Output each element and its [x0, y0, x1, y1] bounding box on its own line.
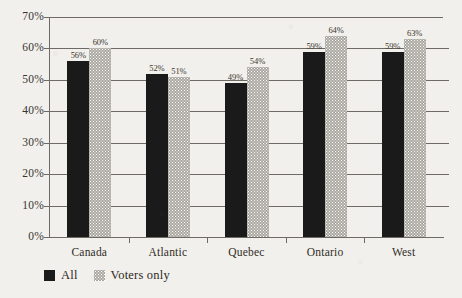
bar-value-label: 60% — [83, 37, 117, 47]
y-axis-tick-label: 60% — [2, 41, 44, 53]
bar-chart: 0%10%20%30%40%50%60%70% 56%60%52%51%49%5… — [0, 0, 462, 298]
y-axis-tick-label: 20% — [2, 167, 44, 179]
bar-value-label: 63% — [398, 28, 432, 38]
bar-quebec-all — [225, 83, 247, 237]
y-axis-tick-label: 10% — [2, 199, 44, 211]
bar-west-all — [382, 52, 404, 237]
y-axis-tick-label: 50% — [2, 73, 44, 85]
legend-swatch-icon — [94, 270, 105, 281]
y-axis-tick-label-wrap: 20% — [0, 167, 44, 181]
y-axis-tick-label-wrap: 40% — [0, 104, 44, 118]
legend-item-all[interactable]: All — [44, 268, 78, 283]
bar-quebec-voters-only — [247, 67, 269, 237]
bar-ontario-all — [303, 52, 325, 237]
y-axis-tick-label-wrap: 30% — [0, 136, 44, 150]
bar-value-label: 51% — [162, 66, 196, 76]
legend-label: All — [61, 268, 78, 283]
y-axis-tick — [44, 206, 50, 207]
bar-atlantic-voters-only — [168, 77, 190, 237]
y-axis-tick-label-wrap: 10% — [0, 199, 44, 213]
plot-area: 56%60%52%51%49%54%59%64%59%63% — [50, 17, 443, 237]
y-axis-tick — [44, 237, 50, 238]
y-axis-tick-right — [443, 111, 449, 112]
y-axis-tick — [44, 17, 50, 18]
x-axis-tick — [207, 238, 208, 243]
y-axis-tick — [44, 48, 50, 49]
y-axis-tick-label-wrap: 0% — [0, 230, 44, 244]
x-axis-tick — [129, 238, 130, 243]
y-axis-tick-right — [443, 48, 449, 49]
y-axis-tick-label: 70% — [2, 10, 44, 22]
bar-canada-all — [67, 61, 89, 237]
y-axis-tick-label-wrap: 50% — [0, 73, 44, 87]
legend-label: Voters only — [111, 268, 170, 283]
bar-value-label: 64% — [319, 25, 353, 35]
x-axis-tick — [364, 238, 365, 243]
legend-item-voters-only[interactable]: Voters only — [94, 268, 170, 283]
y-axis-tick — [44, 80, 50, 81]
x-axis-line — [49, 237, 444, 238]
x-axis-category-label-west: West — [354, 246, 454, 258]
chart-legend: AllVoters only — [44, 268, 170, 283]
y-axis-tick-label-wrap: 60% — [0, 41, 44, 55]
bar-canada-voters-only — [89, 48, 111, 237]
y-axis-tick-right — [443, 206, 449, 207]
bar-atlantic-all — [146, 74, 168, 237]
bar-value-label: 54% — [241, 56, 275, 66]
y-axis-tick-right — [443, 174, 449, 175]
y-axis-tick-label: 0% — [2, 230, 44, 242]
gridline — [50, 17, 443, 18]
y-axis-tick — [44, 111, 50, 112]
y-axis-tick-label: 40% — [2, 104, 44, 116]
y-axis-tick — [44, 143, 50, 144]
y-axis-tick — [44, 174, 50, 175]
y-axis-tick-label-wrap: 70% — [0, 10, 44, 24]
bar-ontario-voters-only — [325, 36, 347, 237]
y-axis-tick-right — [443, 143, 449, 144]
x-axis-tick — [286, 238, 287, 243]
y-axis-tick-right — [443, 80, 449, 81]
legend-swatch-icon — [44, 270, 55, 281]
y-axis-tick-label: 30% — [2, 136, 44, 148]
bar-west-voters-only — [404, 39, 426, 237]
